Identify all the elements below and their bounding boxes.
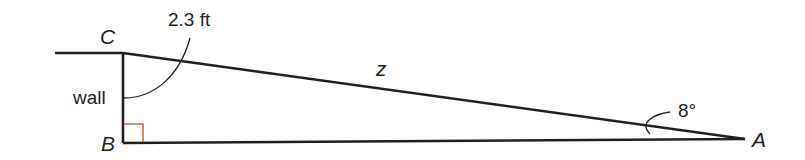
wall-height-measure: 2.3 ft: [168, 9, 211, 30]
angle-a-measure: 8°: [678, 100, 696, 121]
side-ca-hypotenuse: [123, 53, 745, 139]
side-ba-base: [123, 139, 745, 143]
angle-a-arc: [646, 112, 670, 134]
side-cb-label: wall: [72, 87, 106, 108]
right-triangle-diagram: C B A wall z 2.3 ft 8°: [0, 0, 805, 160]
right-angle-marker: [124, 124, 143, 142]
vertex-a-label: A: [750, 128, 766, 151]
measure-leader-curve: [124, 38, 190, 98]
side-ca-variable-label: z: [375, 57, 387, 80]
vertex-b-label: B: [101, 132, 115, 155]
vertex-c-label: C: [100, 25, 116, 48]
